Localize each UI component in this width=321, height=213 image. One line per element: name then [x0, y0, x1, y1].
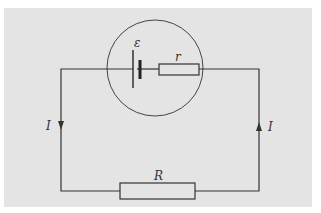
current-label-right: I [267, 120, 273, 134]
source-enclosure-circle [107, 20, 203, 116]
circuit-diagram: ε r R I I [0, 0, 321, 213]
current-arrow-up-icon [256, 122, 262, 131]
external-resistance-label: R [153, 169, 163, 183]
external-resistor [120, 183, 195, 199]
current-label-left: I [45, 119, 51, 133]
current-arrow-down-icon [58, 121, 64, 130]
cell-icon [133, 50, 140, 88]
emf-label: ε [134, 36, 140, 50]
internal-resistance-label: r [175, 50, 182, 64]
internal-resistor [159, 64, 199, 75]
